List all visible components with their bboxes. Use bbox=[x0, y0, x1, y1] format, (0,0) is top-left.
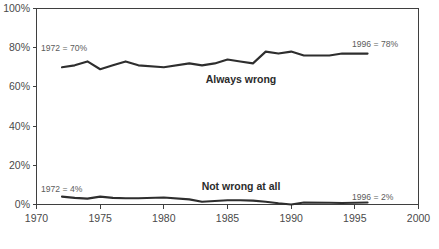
chart-canvas: 100% 80% 60% 40% 20% 0% 1970 1975 1980 1… bbox=[0, 0, 439, 249]
y-tick-label-100: 100% bbox=[3, 2, 30, 14]
x-axis-labels: 1970 1975 1980 1985 1990 1995 2000 bbox=[25, 212, 431, 224]
not-wrong-end-annotation: 1996 = 2% bbox=[352, 192, 394, 202]
x-axis-ticks bbox=[37, 205, 419, 210]
x-tick-label-1990: 1990 bbox=[280, 212, 304, 224]
always-wrong-series-label: Always wrong bbox=[206, 73, 277, 85]
chart-annotations: 1972 = 70% 1996 = 78% 1972 = 4% 1996 = 2… bbox=[41, 39, 398, 202]
y-tick-label-0: 0% bbox=[15, 198, 30, 210]
y-tick-label-20: 20% bbox=[9, 159, 30, 171]
y-tick-label-40: 40% bbox=[9, 120, 30, 132]
x-tick-label-1995: 1995 bbox=[343, 212, 367, 224]
not-wrong-start-annotation: 1972 = 4% bbox=[41, 184, 83, 194]
always-wrong-start-annotation: 1972 = 70% bbox=[41, 43, 87, 53]
not-wrong-series-label: Not wrong at all bbox=[202, 180, 281, 192]
x-tick-label-1985: 1985 bbox=[216, 212, 240, 224]
line-chart: 100% 80% 60% 40% 20% 0% 1970 1975 1980 1… bbox=[0, 0, 439, 249]
y-tick-label-60: 60% bbox=[9, 80, 30, 92]
y-axis-labels: 100% 80% 60% 40% 20% 0% bbox=[3, 2, 30, 210]
y-axis-ticks bbox=[33, 9, 37, 205]
x-tick-label-1975: 1975 bbox=[89, 212, 113, 224]
x-tick-label-1970: 1970 bbox=[25, 212, 49, 224]
x-tick-label-2000: 2000 bbox=[407, 212, 431, 224]
y-tick-label-80: 80% bbox=[9, 41, 30, 53]
always-wrong-end-annotation: 1996 = 78% bbox=[352, 39, 398, 49]
x-tick-label-1980: 1980 bbox=[152, 212, 176, 224]
plot-frame bbox=[37, 9, 419, 205]
series-line-not-wrong-at-all bbox=[62, 197, 368, 205]
series-line-always-wrong bbox=[62, 52, 368, 70]
